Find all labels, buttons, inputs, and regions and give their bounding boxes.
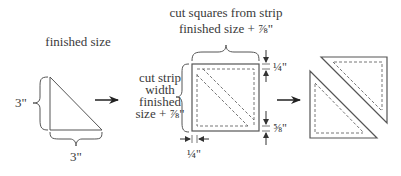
width-label: 3" bbox=[70, 149, 82, 164]
diagonal-seam-lower bbox=[197, 75, 248, 126]
cut-strip-label-line4: size + ⅞" bbox=[135, 106, 184, 121]
finished-triangle-shape bbox=[50, 77, 102, 130]
step1-finished-triangle-group: finished size 3" 3" bbox=[15, 34, 111, 164]
cut-square-shape bbox=[192, 64, 259, 131]
diagonal-seam-upper bbox=[203, 69, 254, 120]
left-seam-allowance-label: ¼" bbox=[187, 147, 201, 161]
cut-squares-size-label: finished size + ⅞" bbox=[179, 21, 273, 36]
width-brace-icon bbox=[50, 132, 102, 146]
finished-size-label: finished size bbox=[45, 34, 111, 49]
height-brace-icon bbox=[33, 77, 48, 130]
upper-triangle-shape bbox=[321, 57, 387, 123]
hst-cutting-diagram: finished size 3" 3" cut squares from str… bbox=[0, 0, 401, 176]
upper-seam-line bbox=[197, 69, 254, 126]
lower-triangle-shape bbox=[310, 71, 377, 138]
step3-half-square-triangles bbox=[310, 57, 387, 138]
height-label: 3" bbox=[15, 95, 27, 110]
top-seam-allowance-label: ¼" bbox=[273, 60, 287, 74]
corner-allowance-label: ⅝" bbox=[273, 121, 287, 135]
cut-squares-label: cut squares from strip bbox=[169, 5, 282, 20]
square-width-brace-icon bbox=[192, 45, 259, 61]
lower-seam-line bbox=[197, 74, 249, 126]
step2-cut-square-group: cut squares from strip finished size + ⅞… bbox=[135, 5, 287, 161]
